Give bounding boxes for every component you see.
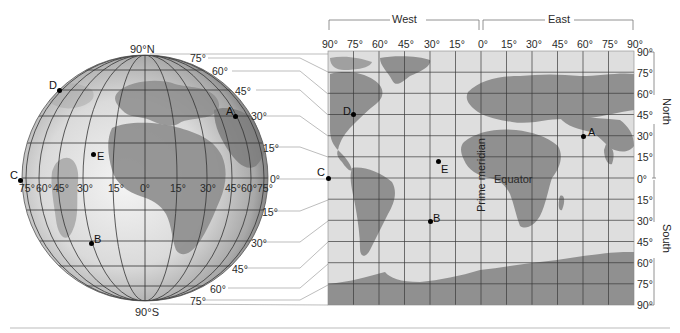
map-equator-label: Equator bbox=[494, 174, 533, 185]
map-south-label: South bbox=[661, 224, 672, 253]
globe-lon-label-15e: 15° bbox=[170, 183, 186, 194]
map-lat-label-15n: 15° bbox=[637, 152, 653, 163]
globe-lon-label-75w: 75° bbox=[19, 183, 35, 194]
globe-lat-label-30n: 30° bbox=[251, 111, 267, 122]
map-point-a-label: A bbox=[588, 127, 595, 138]
map-lon-label-75w: 75° bbox=[347, 39, 363, 50]
globe-lon-label-60e: 60° bbox=[241, 183, 257, 194]
globe-point-e bbox=[91, 152, 96, 157]
map-lat-label-45n: 45° bbox=[637, 110, 653, 121]
globe-point-c-label: C bbox=[10, 170, 18, 181]
globe-north-pole-label: 90°N bbox=[130, 44, 155, 55]
map-point-c-label: C bbox=[317, 167, 325, 178]
globe-lon-label-30e: 30° bbox=[200, 183, 216, 194]
map-east-label: East bbox=[548, 14, 570, 25]
map-lon-label-30e: 30° bbox=[526, 39, 542, 50]
map-lon-label-15w: 15° bbox=[449, 39, 465, 50]
map-lat-label-30n: 30° bbox=[637, 131, 653, 142]
globe-lon-label-75e: 75° bbox=[257, 183, 273, 194]
map-lon-label-45w: 45° bbox=[398, 39, 414, 50]
map-point-c bbox=[326, 176, 331, 181]
globe-point-b-label: B bbox=[94, 234, 101, 245]
map-north-label: North bbox=[661, 98, 672, 125]
map-west-label: West bbox=[392, 14, 417, 25]
globe-lon-label-0: 0° bbox=[140, 183, 150, 194]
map-lat-label-60n: 60° bbox=[637, 89, 653, 100]
globe-lat-label-60n: 60° bbox=[212, 66, 228, 77]
globe-lon-label-45e: 45° bbox=[225, 183, 241, 194]
globe-lat-label-15n: 15° bbox=[263, 143, 279, 154]
map-lat-label-0: 0° bbox=[637, 174, 647, 185]
map-lon-label-60w: 60° bbox=[372, 39, 388, 50]
globe-lat-label-15s: 15° bbox=[262, 207, 278, 218]
globe-lat-label-45s: 45° bbox=[232, 264, 248, 275]
globe-point-d bbox=[57, 88, 62, 93]
globe-point-a bbox=[233, 114, 238, 119]
map-lon-label-45e: 45° bbox=[552, 39, 568, 50]
map-lat-label-75n: 75° bbox=[637, 68, 653, 79]
globe-lon-label-60w: 60° bbox=[36, 183, 52, 194]
map-prime-meridian-label: Prime meridian bbox=[476, 138, 487, 212]
map-lat-label-15s: 15° bbox=[637, 195, 653, 206]
globe-point-c bbox=[18, 178, 23, 183]
map-point-b-label: B bbox=[433, 213, 440, 224]
globe-lon-label-30w: 30° bbox=[77, 183, 93, 194]
map-point-e-label: E bbox=[441, 164, 448, 175]
map-lon-label-15e: 15° bbox=[501, 39, 517, 50]
map-point-d-label: D bbox=[343, 106, 351, 117]
map-lon-label-60e: 60° bbox=[577, 39, 593, 50]
map-lon-label-90w: 90° bbox=[322, 39, 338, 50]
map-lon-label-75e: 75° bbox=[602, 39, 618, 50]
globe-lon-label-15w: 15° bbox=[108, 183, 124, 194]
map-lat-label-30s: 30° bbox=[637, 216, 653, 227]
globe-south-pole-label: 90°S bbox=[135, 307, 159, 318]
globe-lat-label-75s: 75° bbox=[190, 296, 206, 307]
globe-lat-label-60s: 60° bbox=[210, 284, 226, 295]
map-lat-label-45s: 45° bbox=[637, 237, 653, 248]
map-lon-label-0: 0° bbox=[478, 39, 488, 50]
map-lat-label-75s: 75° bbox=[637, 279, 653, 290]
globe-lon-label-45w: 45° bbox=[53, 183, 69, 194]
map-point-d bbox=[351, 112, 356, 117]
globe-point-d-label: D bbox=[49, 80, 57, 91]
globe-point-e-label: E bbox=[97, 151, 104, 162]
globe-lat-label-75n: 75° bbox=[190, 53, 206, 64]
map-lat-label-90n: 90° bbox=[637, 47, 653, 58]
map-lon-label-30w: 30° bbox=[424, 39, 440, 50]
globe-lat-label-45n: 45° bbox=[235, 86, 251, 97]
map-point-a bbox=[581, 134, 586, 139]
globe-point-a-label: A bbox=[226, 106, 233, 117]
map-lat-label-90s: 90° bbox=[637, 300, 653, 311]
map-lat-label-60s: 60° bbox=[637, 258, 653, 269]
globe-lat-label-30s: 30° bbox=[251, 238, 267, 249]
